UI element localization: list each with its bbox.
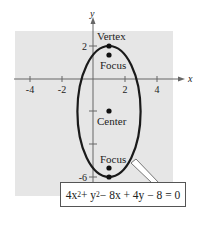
equation-term: − 8x + 4y − 8 = 0: [100, 189, 181, 201]
x-axis-arrow-icon: [178, 77, 185, 82]
y-tick-label: 2: [82, 41, 87, 52]
equation-term: + y: [81, 189, 96, 201]
equation-box: 4x2 + y2 − 8x + 4y − 8 = 0: [60, 182, 186, 207]
x-tick-label: -4: [26, 84, 34, 95]
center-label: Center: [97, 115, 127, 127]
x-tick-label: -2: [58, 84, 66, 95]
center-point: [106, 108, 111, 113]
focus-top-point: [106, 52, 111, 57]
plot-background: [15, 31, 173, 196]
focus-bottom-label: Focus: [100, 153, 126, 165]
y-axis-label: y: [89, 8, 95, 19]
vertex-bottom-point: [106, 174, 111, 179]
vertex-top-point: [106, 43, 111, 48]
vertex-top-label: Vertex: [97, 30, 126, 42]
equation-term: 4x: [66, 189, 78, 201]
x-tick-label: 4: [155, 84, 160, 95]
x-axis-label: x: [187, 73, 193, 84]
focus-top-label: Focus: [100, 59, 126, 71]
focus-bottom-point: [106, 165, 111, 170]
x-tick-label: 2: [123, 84, 128, 95]
